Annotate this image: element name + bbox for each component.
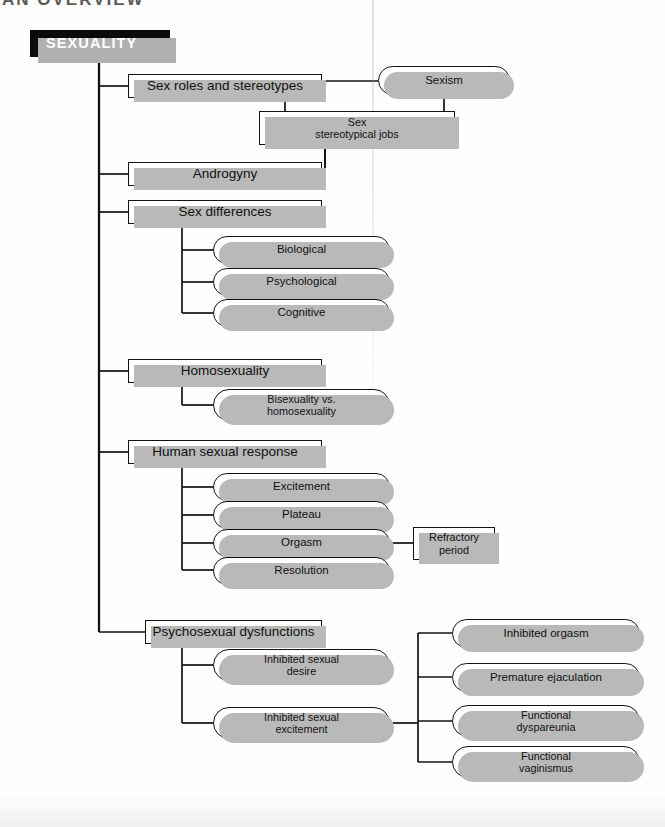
node-label-line2: period (433, 544, 475, 556)
node-psychosexual-dysfunctions[interactable]: Psychosexual dysfunctions (145, 620, 322, 644)
node-psychological[interactable]: Psychological (213, 268, 390, 296)
node-label: Plateau (276, 508, 327, 521)
node-label: Orgasm (275, 536, 328, 549)
node-sex-roles-and-stereotypes[interactable]: Sex roles and stereotypes (128, 74, 322, 98)
node-label: Sex differences (173, 204, 278, 219)
node-label-line2: stereotypical jobs (309, 128, 404, 140)
page-edge-artifact (0, 793, 665, 827)
node-cognitive[interactable]: Cognitive (213, 299, 390, 327)
node-human-sexual-response[interactable]: Human sexual response (128, 440, 322, 464)
node-label: Sexism (419, 74, 469, 87)
node-inhibited-sexual-desire[interactable]: Inhibited sexual desire (213, 649, 390, 681)
node-label: Psychological (260, 275, 342, 288)
node-label-line1: Bisexuality vs. (261, 393, 341, 405)
node-label: Resolution (268, 564, 334, 577)
node-orgasm[interactable]: Orgasm (213, 529, 390, 557)
node-label-line1: Sex (342, 116, 373, 128)
node-inhibited-orgasm[interactable]: Inhibited orgasm (452, 619, 640, 648)
node-sexism[interactable]: Sexism (378, 66, 510, 95)
node-androgyny[interactable]: Androgyny (128, 162, 322, 186)
node-label-line2: homosexuality (261, 405, 342, 417)
node-sex-stereotypical-jobs[interactable]: Sex stereotypical jobs (259, 111, 455, 145)
node-homosexuality[interactable]: Homosexuality (128, 359, 322, 383)
node-plateau[interactable]: Plateau (213, 501, 390, 529)
node-label-line2: desire (281, 665, 322, 677)
node-label: Excitement (267, 480, 336, 493)
node-label: Biological (271, 243, 332, 256)
cropped-header-text: AN OVERVIEW (0, 0, 230, 13)
node-label: Inhibited orgasm (497, 627, 594, 640)
node-label-line1: Inhibited sexual (258, 711, 345, 723)
node-premature-ejaculation[interactable]: Premature ejaculation (452, 663, 640, 692)
node-label-line2: vaginismus (513, 762, 579, 774)
node-resolution[interactable]: Resolution (213, 557, 390, 585)
node-label: Psychosexual dysfunctions (146, 624, 320, 639)
node-label-line2: excitement (269, 723, 333, 735)
node-label: SEXUALITY (31, 35, 143, 52)
cropped-header-label: AN OVERVIEW (2, 0, 230, 10)
node-sexuality-root[interactable]: SEXUALITY (30, 30, 170, 57)
node-label: Androgyny (187, 166, 264, 181)
node-bisexuality-vs-homosexuality[interactable]: Bisexuality vs. homosexuality (213, 389, 390, 421)
node-biological[interactable]: Biological (213, 236, 390, 264)
node-label-line1: Functional (515, 709, 577, 721)
node-label-line1: Inhibited sexual (258, 653, 345, 665)
node-sex-differences[interactable]: Sex differences (128, 200, 322, 224)
node-label-line1: Refractory (423, 531, 485, 543)
node-inhibited-sexual-excitement[interactable]: Inhibited sexual excitement (213, 707, 390, 739)
node-label: Homosexuality (175, 363, 276, 378)
concept-map-canvas: AN OVERVIEW (0, 0, 665, 827)
node-functional-vaginismus[interactable]: Functional vaginismus (452, 746, 640, 778)
node-functional-dyspareunia[interactable]: Functional dyspareunia (452, 705, 640, 737)
node-label-line1: Functional (515, 750, 577, 762)
node-excitement[interactable]: Excitement (213, 473, 390, 501)
node-label: Sex roles and stereotypes (141, 78, 309, 93)
node-label-line2: dyspareunia (511, 721, 582, 733)
node-refractory-period[interactable]: Refractory period (413, 527, 495, 560)
node-label: Premature ejaculation (484, 671, 608, 684)
node-label: Human sexual response (146, 444, 304, 459)
node-label: Cognitive (272, 306, 332, 319)
